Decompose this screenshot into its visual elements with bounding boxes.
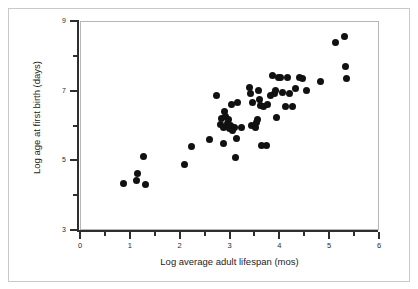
x-axis-tick xyxy=(278,232,280,239)
scatter-point xyxy=(299,75,306,82)
y-axis-tick xyxy=(70,90,79,92)
y-axis-minor-tick xyxy=(73,194,79,196)
x-axis-minor-tick xyxy=(353,232,355,236)
scatter-point xyxy=(264,101,271,108)
x-axis-minor-tick xyxy=(303,232,305,236)
x-axis-tick xyxy=(129,232,131,239)
scatter-point xyxy=(133,177,140,184)
x-axis-tick-label: 4 xyxy=(267,241,291,250)
scatter-point xyxy=(120,180,127,187)
scatter-point xyxy=(188,143,195,150)
scatter-point xyxy=(332,39,339,46)
scatter-points-layer xyxy=(81,22,378,229)
scatter-point xyxy=(341,33,348,40)
x-axis-tick-label: 5 xyxy=(317,241,341,250)
scatter-point xyxy=(142,181,149,188)
y-axis-minor-tick xyxy=(73,55,79,57)
scatter-point xyxy=(289,103,296,110)
scatter-point xyxy=(233,135,240,142)
scatter-point xyxy=(286,90,293,97)
x-axis-minor-tick xyxy=(253,232,255,236)
scatter-point xyxy=(255,87,262,94)
y-axis-minor-tick xyxy=(73,125,79,127)
scatter-point xyxy=(282,103,289,110)
y-axis-tick xyxy=(70,159,79,161)
scatter-plot-figure: 3579 Log age at first birth (days) 01234… xyxy=(0,0,418,289)
scatter-point xyxy=(213,92,220,99)
y-axis-tick-label: 9 xyxy=(36,17,66,24)
scatter-point xyxy=(343,75,350,82)
scatter-point xyxy=(247,90,254,97)
scatter-point xyxy=(134,170,141,177)
scatter-point xyxy=(273,114,280,121)
scatter-point xyxy=(232,154,239,161)
x-axis-tick-label: 6 xyxy=(367,241,391,250)
x-axis-tick-label: 0 xyxy=(68,241,92,250)
scatter-point xyxy=(238,124,245,131)
scatter-point xyxy=(254,116,261,123)
y-axis-tick-label: 3 xyxy=(36,226,66,233)
scatter-point xyxy=(181,161,188,168)
scatter-point xyxy=(220,140,227,147)
scatter-point xyxy=(206,136,213,143)
scatter-point xyxy=(263,142,270,149)
x-axis-tick xyxy=(378,232,380,239)
y-axis-title: Log age at first birth (days) xyxy=(31,38,42,198)
y-axis-tick xyxy=(70,20,79,22)
x-axis-tick-label: 2 xyxy=(168,241,192,250)
x-axis-tick xyxy=(328,232,330,239)
x-axis-title: Log average adult lifespan (mos) xyxy=(80,256,379,267)
scatter-point xyxy=(292,85,299,92)
scatter-point xyxy=(231,124,238,131)
scatter-point xyxy=(284,74,291,81)
x-axis-minor-tick xyxy=(104,232,106,236)
x-axis-spine xyxy=(77,230,378,232)
x-axis-tick xyxy=(179,232,181,239)
scatter-point xyxy=(317,78,324,85)
plot-panel xyxy=(80,21,379,230)
x-axis-minor-tick xyxy=(154,232,156,236)
scatter-point xyxy=(277,74,284,81)
scatter-point xyxy=(234,99,241,106)
x-axis-minor-tick xyxy=(204,232,206,236)
x-axis-tick-label: 1 xyxy=(118,241,142,250)
scatter-point xyxy=(303,87,310,94)
scatter-point xyxy=(140,153,147,160)
x-axis-tick-label: 3 xyxy=(218,241,242,250)
x-axis-tick xyxy=(79,232,81,239)
scatter-point xyxy=(342,63,349,70)
x-axis-tick xyxy=(229,232,231,239)
